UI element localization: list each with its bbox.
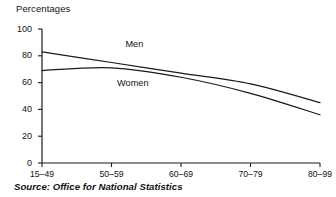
y-axis-tick-label: 40 (6, 105, 32, 114)
y-axis-tick-label: 20 (6, 132, 32, 141)
x-axis-tick-label: 50–59 (100, 170, 124, 179)
series-label-women: Women (117, 79, 149, 88)
y-axis-tick-label: 100 (6, 25, 32, 34)
x-axis-tick-label: 70–79 (239, 170, 263, 179)
x-axis-tick-label: 80–99 (308, 170, 332, 179)
y-axis-tick-label: 0 (6, 159, 32, 168)
y-axis-tick-label: 60 (6, 78, 32, 87)
x-axis-tick-label: 15–49 (30, 170, 54, 179)
chart-figure: Percentages 020406080100 15–4950–5960–69… (0, 0, 336, 197)
y-axis-tick-label: 80 (6, 51, 32, 60)
series-lines (42, 52, 320, 115)
x-axis-tick-label: 60–69 (169, 170, 193, 179)
x-axis-ticks (42, 163, 320, 167)
series-label-men: Men (125, 40, 143, 49)
source-note: Source: Office for National Statistics (14, 181, 183, 192)
line-chart-plot (0, 0, 336, 197)
axis-lines (42, 29, 320, 163)
